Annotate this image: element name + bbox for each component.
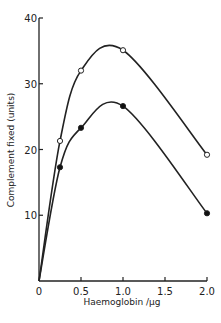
open-circle-marker xyxy=(57,138,62,143)
x-tick-label: 1.5 xyxy=(157,286,173,297)
curves xyxy=(39,45,207,281)
filled-circle-marker xyxy=(78,125,83,130)
open-circle-marker xyxy=(204,152,209,157)
series-line-1 xyxy=(39,102,207,281)
y-axis-label: Complement fixed (units) xyxy=(6,93,16,208)
y-tick-label: 40 xyxy=(24,13,37,24)
x-tick-label: 2.0 xyxy=(199,286,215,297)
x-tick-label: 0 xyxy=(36,286,42,297)
x-tick-label: 1.0 xyxy=(115,286,131,297)
chart: 00.51.01.52.010203040 Haemoglobin /µg Co… xyxy=(0,0,221,323)
open-circle-marker xyxy=(78,68,83,73)
markers xyxy=(57,48,209,216)
x-tick-label: 0.5 xyxy=(73,286,89,297)
x-axis-label: Haemoglobin /µg xyxy=(83,297,160,307)
ticks: 00.51.01.52.010203040 xyxy=(24,13,215,297)
open-circle-marker xyxy=(120,48,125,53)
filled-circle-marker xyxy=(57,165,62,170)
y-tick-label: 30 xyxy=(24,79,37,90)
y-tick-label: 20 xyxy=(24,145,37,156)
y-tick-label: 10 xyxy=(24,210,37,221)
axes xyxy=(39,18,207,281)
filled-circle-marker xyxy=(120,104,125,109)
filled-circle-marker xyxy=(204,211,209,216)
series-line-0 xyxy=(39,45,207,281)
